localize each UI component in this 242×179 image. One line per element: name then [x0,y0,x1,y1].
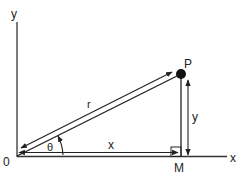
foot-m-label: M [174,161,184,175]
coordinate-diagram: y x 0 P M r θ x y [0,0,242,179]
origin-label: 0 [3,155,10,169]
y-axis-label: y [11,7,17,21]
x-length-label: x [108,138,114,152]
x-axis-label: x [230,151,236,165]
y-length-label: y [192,110,198,124]
angle-label: θ [47,141,53,153]
radius-dimension-arrow [21,72,172,148]
right-angle-marker [171,147,181,157]
radius-line [17,74,181,156]
radius-label: r [87,98,91,110]
point-p-label: P [184,57,192,71]
